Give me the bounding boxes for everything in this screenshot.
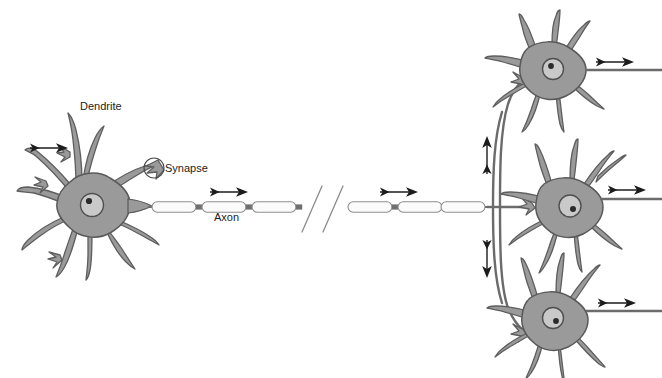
axon-label: Axon [214, 211, 239, 223]
myelin-sheath-right [348, 202, 485, 212]
postsynaptic-top-nucleolus [548, 63, 554, 69]
dendrite-label: Dendrite [80, 100, 122, 112]
postsynaptic-middle-nucleolus [570, 206, 576, 212]
neuron-diagram-canvas: Dendrite Synapse Axon [0, 0, 662, 378]
node-of-ranvier [392, 204, 398, 209]
node-of-ranvier [296, 204, 302, 209]
presynaptic-nucleolus [86, 198, 92, 204]
myelin-segment [348, 202, 392, 212]
postsynaptic-middle-nucleus [559, 195, 581, 217]
postsynaptic-bottom-nucleus [543, 308, 564, 329]
node-of-ranvier [246, 204, 252, 209]
neuron-diagram: Dendrite Synapse Axon [0, 0, 662, 378]
node-of-ranvier [196, 204, 202, 209]
myelin-segment [441, 202, 485, 212]
presynaptic-nucleus [81, 194, 104, 217]
postsynaptic-top-nucleus [543, 59, 564, 80]
synapse-label: Synapse [165, 162, 208, 174]
myelin-segment [398, 202, 442, 212]
postsynaptic-bottom-nucleolus [553, 318, 559, 324]
myelin-segment [152, 202, 196, 212]
myelin-segment [252, 202, 296, 212]
